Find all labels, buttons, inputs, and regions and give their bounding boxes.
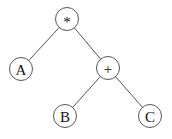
node-label-a: A: [16, 62, 27, 78]
tree-edges: [29, 27, 143, 107]
node-c: C: [139, 105, 162, 128]
edge-mul-a: [29, 27, 59, 60]
node-b: B: [54, 105, 77, 128]
tree-nodes: * A + B C: [10, 8, 162, 128]
node-label-plus: +: [104, 61, 112, 77]
node-label-multiply: *: [63, 14, 71, 30]
edge-add-b: [73, 77, 101, 108]
node-label-c: C: [145, 109, 155, 125]
node-a: A: [10, 58, 33, 81]
edge-mul-add: [74, 28, 100, 59]
node-plus: +: [97, 57, 120, 80]
edge-add-c: [116, 77, 143, 108]
expression-tree-diagram: * A + B C: [0, 0, 172, 139]
node-label-b: B: [60, 109, 70, 125]
node-multiply: *: [56, 8, 79, 31]
